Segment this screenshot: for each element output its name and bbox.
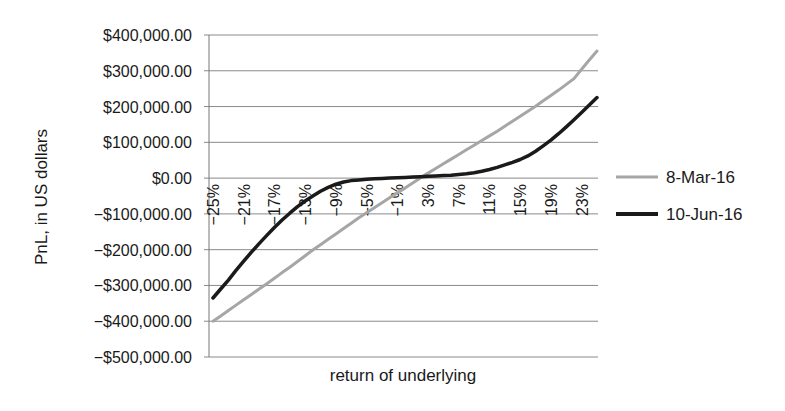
x-axis-title: return of underlying	[330, 366, 476, 385]
x-tick-label: −25%	[205, 184, 222, 225]
x-tick-label: 11%	[481, 184, 498, 215]
y-tick-label: $300,000.00	[103, 63, 192, 80]
y-tick-label: −$300,000.00	[94, 277, 192, 294]
legend-label-8-mar-16: 8-Mar-16	[666, 168, 735, 187]
x-tick-label: 15%	[512, 184, 529, 216]
legend-item-10-jun-16: 10-Jun-16	[616, 205, 743, 224]
x-axis-tick-labels: −25%−21%−17%−13%−9%−5%−1%3%7%11%15%19%23…	[205, 184, 591, 225]
x-tick-label: −9%	[328, 184, 345, 216]
legend: 8-Mar-16 10-Jun-16	[616, 168, 743, 224]
pnl-line-chart: $400,000.00$300,000.00$200,000.00$100,00…	[0, 0, 785, 411]
y-tick-label: −$500,000.00	[94, 349, 192, 366]
x-tick-label: 19%	[543, 184, 560, 216]
y-tick-label: −$200,000.00	[94, 242, 192, 259]
y-tick-label: −$100,000.00	[94, 206, 192, 223]
y-tick-label: $100,000.00	[103, 134, 192, 151]
y-tick-label: −$400,000.00	[94, 313, 192, 330]
x-tick-label: 23%	[574, 184, 591, 216]
y-tick-label: $200,000.00	[103, 99, 192, 116]
x-tick-label: 7%	[451, 184, 468, 207]
legend-item-8-mar-16: 8-Mar-16	[616, 168, 735, 187]
x-tick-label: −21%	[236, 184, 253, 225]
y-tick-label: $0.00	[152, 170, 192, 187]
legend-label-10-jun-16: 10-Jun-16	[666, 205, 743, 224]
y-tick-label: $400,000.00	[103, 27, 192, 44]
x-tick-label: 3%	[420, 184, 437, 207]
y-axis-title: PnL, in US dollars	[32, 129, 51, 265]
y-axis-tick-labels: $400,000.00$300,000.00$200,000.00$100,00…	[94, 27, 192, 366]
